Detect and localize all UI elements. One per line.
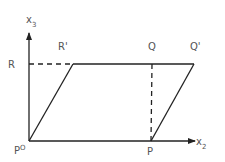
x2-axis-label: x2 (196, 136, 206, 151)
label-r-prime: R' (58, 41, 68, 52)
label-q-prime: Q' (190, 41, 201, 52)
label-q: Q (148, 41, 156, 52)
label-origin: PO (14, 144, 26, 156)
dashed-q-to-p (151, 64, 152, 141)
label-p: P (147, 146, 153, 157)
edge-q-prime-p (151, 64, 194, 141)
edge-origin-r-prime (29, 64, 73, 141)
label-r: R (8, 59, 15, 70)
x3-axis-label: x3 (26, 14, 36, 29)
parallelogram-diagram: x3 x2 R R' Q Q' P PO (0, 0, 225, 162)
